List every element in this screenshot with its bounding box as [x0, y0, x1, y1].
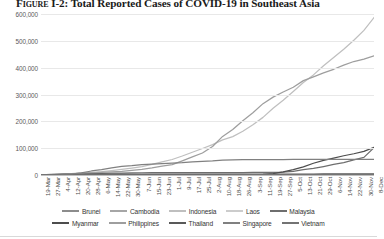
- x-axis-tick-label: 8-Dec: [377, 177, 384, 193]
- x-axis-tick-label: 14-May: [114, 177, 121, 197]
- y-axis-tick-label: 300,000: [16, 91, 38, 98]
- x-axis-tick-label: 13-Oct: [306, 177, 313, 195]
- x-axis-tick-label: 11-Sep: [266, 177, 273, 196]
- gridline: [41, 148, 374, 149]
- legend-color-swatch: [62, 210, 79, 212]
- x-axis-tick-label: 6-Nov: [336, 177, 343, 193]
- legend-item[interactable]: Vietnam: [282, 220, 325, 227]
- legend-item[interactable]: Cambodia: [110, 208, 159, 215]
- legend-item[interactable]: Myanmar: [52, 220, 98, 227]
- x-axis-tick-label: 25-Jul: [205, 177, 212, 193]
- x-axis: 19-Mar27-Mar4-Apr12-Apr20-Apr28-Apr6-May…: [41, 177, 374, 207]
- y-axis-tick-label: 500,000: [16, 37, 38, 44]
- legend-color-swatch: [282, 222, 299, 224]
- legend-item[interactable]: Thailand: [169, 220, 213, 227]
- legend-label: Cambodia: [130, 208, 159, 215]
- legend-color-swatch: [223, 222, 240, 224]
- figure-number-label: Figure I-2:: [16, 0, 68, 9]
- y-axis-tick-label: 200,000: [16, 118, 38, 125]
- x-axis-tick-label: 27-Sep: [286, 177, 293, 196]
- x-axis-tick-label: 3-Sep: [256, 177, 263, 193]
- x-axis-tick-label: 10-Aug: [225, 177, 232, 196]
- legend-label: Laos: [246, 208, 260, 215]
- legend-label: Singapore: [243, 220, 272, 227]
- y-axis-tick-label: 600,000: [16, 11, 38, 18]
- x-axis-tick-label: 2-Aug: [215, 177, 222, 193]
- x-axis-tick-label: 15-Jun: [155, 177, 162, 195]
- legend-item[interactable]: Indonesia: [169, 208, 216, 215]
- x-axis-tick-label: 7-Jun: [145, 177, 152, 192]
- x-axis-tick-label: 30-May: [134, 177, 141, 197]
- x-axis-tick-label: 19-Sep: [276, 177, 283, 196]
- x-axis-tick-label: 26-Aug: [245, 177, 252, 196]
- legend-color-swatch: [226, 210, 243, 212]
- x-axis-tick-label: 22-Nov: [356, 177, 363, 196]
- y-axis: 0100,000200,000300,000400,000500,000600,…: [0, 14, 40, 189]
- x-axis-tick-label: 9-Jul: [185, 177, 192, 190]
- gridline: [41, 68, 374, 69]
- legend-label: Thailand: [189, 220, 214, 227]
- x-axis-tick-label: 6-May: [104, 177, 111, 194]
- y-axis-tick-label: 400,000: [16, 64, 38, 71]
- legend-label: Vietnam: [301, 220, 324, 227]
- x-axis-tick-label: 21-Oct: [316, 177, 323, 195]
- legend-color-swatch: [169, 210, 186, 212]
- figure-title-text: Total Reported Cases of COVID-19 in Sout…: [71, 0, 320, 9]
- legend-color-swatch: [110, 210, 127, 212]
- x-axis-tick-label: 12-Apr: [74, 177, 81, 195]
- x-axis-tick-label: 28-Apr: [94, 177, 101, 195]
- x-axis-tick-label: 18-Aug: [235, 177, 242, 196]
- legend-label: Malaysia: [289, 208, 314, 215]
- x-axis-tick-label: 22-May: [124, 177, 131, 197]
- legend-row: BruneiCambodiaIndonesiaLaosMalaysia: [0, 205, 377, 217]
- x-axis-tick-label: 30-Nov: [367, 177, 374, 196]
- x-axis-line: [41, 175, 374, 176]
- legend-item[interactable]: Malaysia: [270, 208, 315, 215]
- figure-title: Figure I-2: Total Reported Cases of COVI…: [16, 0, 374, 9]
- gridline: [41, 14, 374, 15]
- x-axis-tick-label: 19-Mar: [44, 177, 51, 196]
- legend-color-swatch: [52, 222, 69, 224]
- legend-item[interactable]: Singapore: [223, 220, 272, 227]
- x-axis-tick-label: 20-Apr: [84, 177, 91, 195]
- plot-wrapper: 0100,000200,000300,000400,000500,000600,…: [0, 14, 377, 189]
- legend-label: Indonesia: [189, 208, 217, 215]
- x-axis-tick-label: 27-Mar: [54, 177, 61, 196]
- x-axis-tick-label: 29-Oct: [326, 177, 333, 195]
- legend-row: MyanmarPhilippinesThailandSingaporeVietn…: [0, 217, 377, 229]
- legend-item[interactable]: Brunei: [62, 208, 100, 215]
- x-axis-tick-label: 4-Apr: [64, 177, 71, 192]
- x-axis-tick-label: 23-Jun: [165, 177, 172, 195]
- series-line: [41, 56, 374, 175]
- legend-color-swatch: [169, 222, 186, 224]
- legend-item[interactable]: Laos: [226, 208, 259, 215]
- legend-label: Philippines: [128, 220, 159, 227]
- y-axis-tick-label: 0: [35, 172, 38, 179]
- legend-label: Brunei: [82, 208, 100, 215]
- plot-area: [41, 14, 374, 175]
- x-axis-tick-label: 14-Nov: [346, 177, 353, 196]
- x-axis-tick-label: 1-Jul: [175, 177, 182, 190]
- legend-color-swatch: [109, 222, 126, 224]
- y-axis-tick-label: 100,000: [16, 145, 38, 152]
- bottom-divider: [0, 236, 377, 237]
- x-axis-tick-label: 5-Oct: [296, 177, 303, 192]
- chart-legend: BruneiCambodiaIndonesiaLaosMalaysiaMyanm…: [0, 205, 377, 231]
- legend-label: Myanmar: [72, 220, 99, 227]
- gridline: [41, 41, 374, 42]
- gridline: [41, 95, 374, 96]
- gridline: [41, 121, 374, 122]
- x-axis-tick-label: 17-Jul: [195, 177, 202, 193]
- legend-item[interactable]: Philippines: [109, 220, 159, 227]
- legend-color-swatch: [270, 210, 287, 212]
